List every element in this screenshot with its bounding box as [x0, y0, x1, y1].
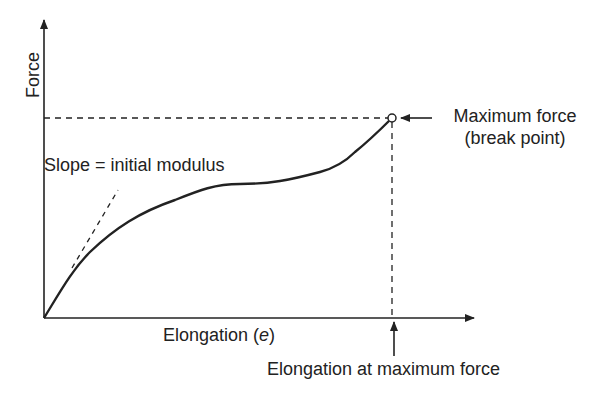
force-elongation-curve	[44, 118, 392, 318]
x-axis-label: Elongation (e)	[163, 326, 275, 344]
break-point-marker	[388, 114, 396, 122]
x-axis-label-prefix: Elongation (	[163, 325, 259, 345]
x-axis-label-suffix: )	[269, 325, 275, 345]
elongation-at-max-annotation: Elongation at maximum force	[267, 360, 500, 378]
max-force-line1: Maximum force	[440, 107, 590, 125]
diagram-canvas	[0, 0, 597, 398]
slope-annotation: Slope = initial modulus	[44, 156, 225, 174]
max-force-line2: (break point)	[440, 129, 590, 147]
max-force-annotation: Maximum force (break point)	[440, 107, 590, 147]
initial-modulus-tangent	[72, 190, 118, 268]
x-axis-variable: e	[259, 325, 269, 345]
y-axis-label: Force	[24, 52, 42, 98]
